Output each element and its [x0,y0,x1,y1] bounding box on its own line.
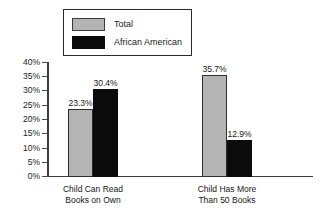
legend-item-african-american: African American [72,35,182,49]
category-label-group1-line2: Books on Own [48,195,138,206]
y-tick-label: 5% [14,158,40,166]
legend-swatch-total [72,18,105,31]
y-tick-mark [42,90,47,91]
y-tick-mark [42,162,47,163]
bar-group2-total [202,75,227,177]
category-label-group1: Child Can Read Books on Own [48,184,138,206]
bar-chart: Total African American 40% 35% 30% 25% 2… [0,0,324,217]
y-tick-label: 10% [14,144,40,152]
y-tick-mark [42,148,47,149]
bar-value-group2-african-american: 12.9% [216,130,263,139]
y-tick-label: 15% [14,129,40,137]
bar-value-group2-total: 35.7% [191,65,238,74]
y-tick-label: 20% [14,115,40,123]
y-tick-mark [42,119,47,120]
y-tick-mark [42,76,47,77]
y-tick-mark [42,62,47,63]
legend-item-total: Total [72,17,133,31]
y-tick-mark [42,176,47,177]
y-tick-label: 25% [14,101,40,109]
y-tick-label: 0% [14,172,40,180]
y-tick-mark [42,105,47,106]
y-axis-tick-labels: 40% 35% 30% 25% 20% 15% 10% 5% 0% [10,0,40,217]
category-label-group2: Child Has More Than 50 Books [182,184,272,206]
bar-value-group1-african-american: 30.4% [82,79,129,88]
legend-label-african-american: African American [114,36,182,49]
y-tick-label: 30% [14,86,40,94]
category-label-group2-line1: Child Has More [182,184,272,195]
legend-swatch-african-american [72,36,105,49]
y-tick-mark [42,133,47,134]
bar-group1-total [68,109,93,177]
legend-label-total: Total [114,18,133,31]
y-tick-label: 35% [14,72,40,80]
bar-group2-african-american [227,140,252,177]
y-tick-label: 40% [14,58,40,66]
category-label-group2-line2: Than 50 Books [182,195,272,206]
bar-value-group1-total: 23.3% [57,99,104,108]
chart-legend: Total African American [63,9,192,56]
category-label-group1-line1: Child Can Read [48,184,138,195]
y-axis-line [47,62,49,177]
